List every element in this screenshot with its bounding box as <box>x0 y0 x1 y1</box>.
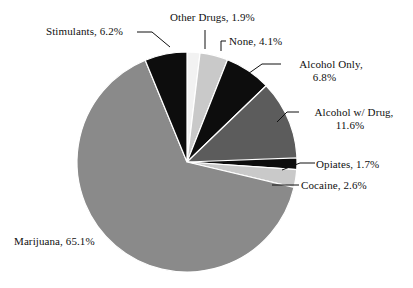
pie-label-other-drugs: Other Drugs, 1.9% <box>170 11 255 24</box>
leader-line-stimulants <box>137 32 170 47</box>
pie-label-alcohol-only-text: Alcohol Only, <box>299 58 363 70</box>
pie-label-cocaine: Cocaine, 2.6% <box>301 179 367 192</box>
pie-label-opiates: Opiates, 1.7% <box>316 158 379 171</box>
pie-label-stimulants: Stimulants, 6.2% <box>46 25 123 38</box>
pie-label-alcohol-with-drug-text: Alcohol w/ Drug, <box>315 106 394 118</box>
pie-label-alcohol-only-value: 6.8% <box>283 71 366 84</box>
leader-line-none <box>221 41 226 51</box>
pie-slices <box>77 52 297 272</box>
pie-label-marijuana: Marijuana, 65.1% <box>14 235 95 248</box>
pie-label-alcohol-with-drug: Alcohol w/ Drug, 11.6% <box>300 106 408 132</box>
pie-label-alcohol-with-drug-value: 11.6% <box>300 119 400 132</box>
pie-label-alcohol-only: Alcohol Only, 6.8% <box>283 58 379 84</box>
pie-label-none: None, 4.1% <box>229 35 282 48</box>
pie-chart-figure: Stimulants, 6.2% Other Drugs, 1.9% None,… <box>0 0 413 288</box>
